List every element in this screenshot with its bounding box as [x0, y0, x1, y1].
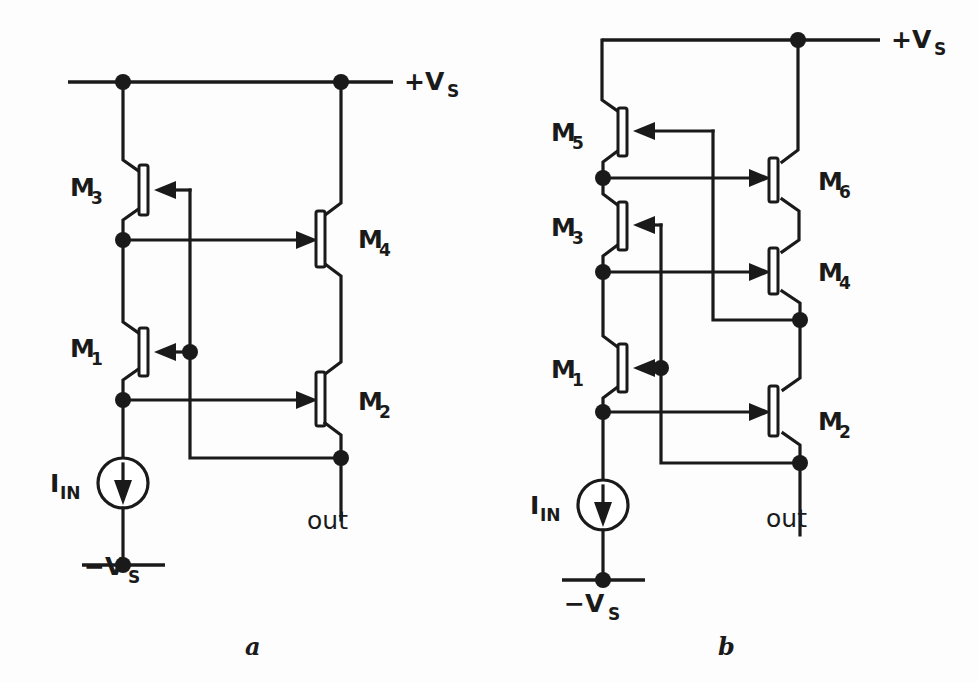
circuit-a — [68, 74, 393, 573]
circuit-a-m4-source-wire — [325, 264, 341, 374]
circuit-b-m2-drain-wire — [783, 320, 800, 390]
circuit-b-m1-sublabel: 1 — [572, 370, 584, 390]
circuit-a-m1-sublabel: 1 — [91, 349, 103, 369]
circuit-b-current-source-sublabel: IN — [540, 505, 561, 525]
circuit-a-node-out — [333, 450, 349, 466]
circuit-b-m6-sublabel: 6 — [839, 182, 851, 202]
circuit-a-m4-drain-wire — [325, 82, 341, 215]
circuit-a-labels: +V S −V S I IN out M 3 M 1 M 4 M 2 — [50, 67, 459, 587]
schematic-canvas: +V S −V S I IN out M 3 M 1 M 4 M 2 +V S … — [0, 0, 978, 682]
circuit-a-m3-drain-wire — [123, 82, 140, 172]
circuit-a-m4-sublabel: 4 — [379, 240, 391, 260]
circuit-a-positive-rail-sublabel: S — [447, 81, 459, 101]
circuit-b-m2-gate-bar — [769, 386, 778, 436]
circuit-b-m2-sublabel: 2 — [839, 422, 851, 442]
circuit-b-output-label: out — [766, 504, 807, 533]
circuit-b-m5-gate-arrow — [633, 122, 655, 140]
circuit-a-m3-sublabel: 3 — [91, 188, 103, 208]
circuit-b-current-source-label: I — [530, 491, 539, 520]
circuit-b-positive-rail-sublabel: S — [934, 39, 946, 59]
caption-a: a — [245, 632, 261, 661]
circuit-a-m3-gate-bar — [139, 165, 148, 215]
circuit-b — [562, 32, 880, 588]
circuit-a-node-rail-left — [115, 74, 131, 90]
circuit-a-m2-sublabel: 2 — [379, 402, 391, 422]
circuit-b-m3-gate-bar — [618, 202, 627, 250]
circuit-b-m4-sublabel: 4 — [839, 273, 851, 293]
circuit-a-negative-rail-label: −V — [84, 552, 125, 581]
circuit-b-m4-gate-bar — [769, 248, 778, 294]
circuit-b-m5-drain-wire — [602, 40, 619, 112]
circuit-a-m2-gate-bar — [316, 372, 325, 426]
circuit-a-m3-gate-arrow — [154, 181, 176, 199]
circuit-a-negative-rail-sublabel: S — [128, 567, 140, 587]
circuit-a-m1-gate-arrow — [154, 343, 176, 361]
circuit-a-m4-gate-bar — [316, 211, 325, 267]
circuit-b-negative-rail-label: −V — [564, 589, 605, 618]
circuit-a-output-label: out — [307, 506, 348, 535]
circuit-b-positive-rail-label: +V — [891, 25, 932, 54]
circuit-a-current-source-label: I — [50, 469, 59, 498]
caption-b: b — [718, 632, 735, 661]
circuit-a-positive-rail-label: +V — [404, 67, 445, 96]
circuit-a-m1-drain-wire — [123, 240, 140, 334]
circuit-b-negative-rail-sublabel: S — [608, 604, 620, 624]
circuit-a-node-m1-gate — [182, 344, 198, 360]
circuit-b-m6-source-wire — [782, 199, 799, 252]
circuit-b-m6-drain-wire — [782, 40, 798, 162]
circuit-b-m3-gate-arrow — [633, 216, 655, 234]
circuit-b-m6-gate-bar — [769, 158, 778, 202]
circuit-b-m3-sublabel: 3 — [572, 228, 584, 248]
circuit-b-m1-gate-arrow — [633, 359, 655, 377]
circuit-a-m1-gate-bar — [139, 328, 148, 376]
circuit-figure: +V S −V S I IN out M 3 M 1 M 4 M 2 +V S … — [0, 0, 978, 682]
circuit-a-current-source-sublabel: IN — [60, 483, 81, 503]
circuit-b-m1-drain-wire — [603, 272, 619, 348]
circuit-b-m5-gate-bar — [618, 108, 627, 156]
circuit-b-m5-sublabel: 5 — [572, 133, 584, 153]
circuit-b-m1-gate-bar — [618, 344, 627, 392]
circuit-b-labels: +V S −V S I IN out M 5 M 3 M 1 M 6 M 4 M… — [530, 25, 946, 624]
circuit-b-node-out — [792, 455, 808, 471]
